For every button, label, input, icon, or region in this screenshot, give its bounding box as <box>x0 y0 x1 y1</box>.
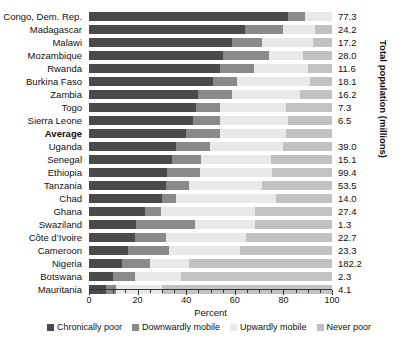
bar-segment <box>269 51 303 60</box>
axis-tick <box>101 290 102 293</box>
stacked-bar <box>89 25 332 34</box>
bar-segment <box>89 129 186 138</box>
category-label: Sierra Leone <box>0 114 86 127</box>
population-value: 11.6 <box>338 62 378 75</box>
stacked-bar <box>89 207 332 216</box>
bar-segment <box>189 181 262 190</box>
bar-segment <box>89 220 136 229</box>
category-label: Chad <box>0 192 86 205</box>
bar-segment <box>89 272 113 281</box>
bar-segment <box>135 272 181 281</box>
bar-row <box>89 62 332 75</box>
bar-segment <box>288 12 305 21</box>
bar-segment <box>89 207 145 216</box>
stacked-bar-chart: Congo, Dem. Rep.MadagascarMalawiMozambiq… <box>0 0 418 340</box>
population-value: 4.1 <box>338 283 378 296</box>
axis-tick <box>271 290 272 293</box>
bar-segment <box>210 142 283 151</box>
bar-segment <box>245 25 284 34</box>
stacked-bar <box>89 246 332 255</box>
bar-segment <box>262 181 332 190</box>
axis-tick-label: 40 <box>181 295 191 305</box>
bar-segment <box>89 155 172 164</box>
category-label: Zambia <box>0 88 86 101</box>
category-label: Rwanda <box>0 62 86 75</box>
bar-row <box>89 75 332 88</box>
category-label: Swaziland <box>0 218 86 231</box>
bar-segment <box>193 116 220 125</box>
axis-tick <box>296 290 297 293</box>
secondary-y-axis-title: Total population (millions) <box>378 40 389 270</box>
axis-tick <box>247 290 248 293</box>
axis-tick-label: 80 <box>278 295 288 305</box>
bar-segment <box>169 246 239 255</box>
axis-tick-label: 60 <box>230 295 240 305</box>
population-value: 17.2 <box>338 36 378 49</box>
legend-label: Never poor <box>327 322 372 332</box>
bar-row <box>89 257 332 270</box>
bar-segment <box>89 181 166 190</box>
legend-swatch-icon <box>317 324 324 331</box>
bar-segment <box>176 142 210 151</box>
bar-segment <box>232 38 261 47</box>
category-label: Average <box>0 127 86 140</box>
bar-row <box>89 10 332 23</box>
stacked-bar <box>89 38 332 47</box>
bar-segment <box>232 90 300 99</box>
bar-row <box>89 179 332 192</box>
bar-segment <box>300 90 332 99</box>
population-value: 22.7 <box>338 231 378 244</box>
stacked-bar <box>89 51 332 60</box>
category-label: Uganda <box>0 140 86 153</box>
bar-segment <box>315 25 332 34</box>
bar-segment <box>200 168 273 177</box>
population-value: 53.5 <box>338 179 378 192</box>
bar-segment <box>240 246 332 255</box>
population-value: 7.3 <box>338 101 378 114</box>
legend-item[interactable]: Downwardly mobile <box>132 322 220 332</box>
legend-swatch-icon <box>230 324 237 331</box>
legend-label: Upwardly mobile <box>240 322 307 332</box>
bar-segment <box>166 181 189 190</box>
stacked-bar <box>89 220 332 229</box>
bar-segment <box>213 77 237 86</box>
legend-item[interactable]: Upwardly mobile <box>230 322 307 332</box>
bar-segment <box>89 77 213 86</box>
category-label: Mozambique <box>0 49 86 62</box>
bar-segment <box>89 25 245 34</box>
population-values-column: 77.324.217.228.011.618.116.27.36.539.015… <box>338 10 378 296</box>
legend-item[interactable]: Chronically poor <box>47 322 122 332</box>
axis-tick-label: 0 <box>86 295 91 305</box>
bar-segment <box>237 77 310 86</box>
legend-swatch-icon <box>47 324 54 331</box>
stacked-bar <box>89 155 332 164</box>
bar-segment <box>255 207 332 216</box>
population-value: 77.3 <box>338 10 378 23</box>
bar-segment <box>167 168 200 177</box>
plot-area <box>89 10 332 296</box>
population-value: 39.0 <box>338 140 378 153</box>
bar-row <box>89 114 332 127</box>
bar-segment <box>220 64 254 73</box>
bar-row <box>89 36 332 49</box>
bar-segment <box>128 246 169 255</box>
bar-segment <box>220 116 288 125</box>
bar-segment <box>89 103 196 112</box>
legend-item[interactable]: Never poor <box>317 322 372 332</box>
bar-segment <box>276 194 332 203</box>
axis-tick <box>150 290 151 293</box>
category-label: Madagascar <box>0 23 86 36</box>
population-value: 14.0 <box>338 192 378 205</box>
bar-segment <box>89 12 288 21</box>
axis-tick <box>259 290 260 293</box>
bar-segment <box>220 103 286 112</box>
axis-tick <box>113 290 114 293</box>
axis-tick-label: 20 <box>133 295 143 305</box>
bar-segment <box>283 142 332 151</box>
category-label: Malawi <box>0 36 86 49</box>
stacked-bar <box>89 64 332 73</box>
bar-segment <box>286 103 332 112</box>
bar-segment <box>150 259 189 268</box>
bar-row <box>89 205 332 218</box>
stacked-bar <box>89 259 332 268</box>
